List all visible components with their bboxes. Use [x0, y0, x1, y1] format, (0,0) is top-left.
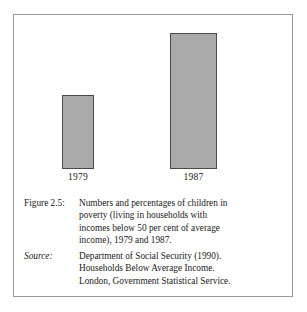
source-line: Department of Social Security (1990).	[79, 250, 284, 262]
caption-text: Numbers and percentages of children in p…	[79, 197, 284, 247]
bar-chart-plot-area: 12% 1979 26% 1987	[14, 15, 292, 183]
bar-category-label-1987: 1987	[184, 171, 204, 183]
caption-line: income), 1979 and 1987.	[79, 234, 284, 246]
source-line: Households Below Average Income.	[79, 262, 284, 274]
bar-1979	[62, 95, 94, 169]
figure-frame: 12% 1979 26% 1987 Figure 2.5: Numbers an…	[13, 14, 293, 297]
bar-category-label-1979: 1979	[68, 171, 88, 183]
figure-source: Source: Department of Social Security (1…	[24, 250, 284, 287]
source-tag: Source:	[24, 250, 79, 262]
caption-tag: Figure 2.5:	[24, 197, 79, 209]
source-text: Department of Social Security (1990). Ho…	[79, 250, 284, 287]
figure-caption: Figure 2.5: Numbers and percentages of c…	[24, 197, 284, 247]
bar-1987	[170, 33, 217, 169]
source-row: Source: Department of Social Security (1…	[24, 250, 284, 287]
caption-line: incomes below 50 per cent of average	[79, 222, 284, 234]
caption-line: poverty (living in households with	[79, 209, 284, 221]
caption-line: Numbers and percentages of children in	[79, 197, 284, 209]
source-line: London, Government Statistical Service.	[79, 275, 284, 287]
caption-row: Figure 2.5: Numbers and percentages of c…	[24, 197, 284, 247]
